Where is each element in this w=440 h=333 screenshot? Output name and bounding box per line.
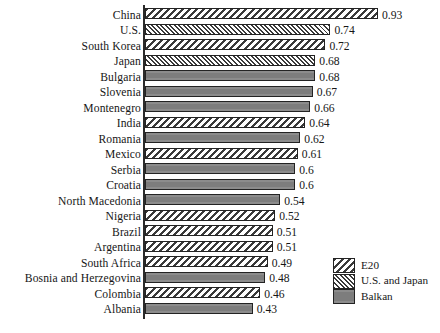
bar-category-label: Albania <box>104 304 141 316</box>
bar-category-label: Japan <box>114 56 141 68</box>
legend-swatch-icon <box>333 289 355 304</box>
bar-value-label: 0.6 <box>299 165 314 177</box>
bar-fill <box>145 303 253 314</box>
bar-value-label: 0.74 <box>334 25 354 37</box>
legend-swatch-icon <box>333 274 355 289</box>
legend-label: U.S. and Japan <box>361 276 428 287</box>
bar-category-label: Serbia <box>111 165 141 177</box>
bar-fill <box>145 8 378 19</box>
bar-fill <box>145 132 300 143</box>
bar-value-label: 0.51 <box>277 227 297 239</box>
bar-row: Japan0.68 <box>0 55 440 71</box>
bar-category-label: Argentina <box>94 242 141 254</box>
legend-item: Balkan <box>333 289 438 305</box>
bar-category-label: Bulgaria <box>100 72 141 84</box>
legend-swatch-icon <box>333 258 355 273</box>
bar-category-label: South Korea <box>82 41 141 53</box>
bar-value-label: 0.49 <box>272 258 292 270</box>
bar-category-label: Montenegro <box>83 103 141 115</box>
bar-row: Albania0.43 <box>0 303 440 319</box>
bar-value-label: 0.52 <box>279 211 299 223</box>
bar-fill <box>145 241 273 252</box>
bar-row: Romania0.62 <box>0 132 440 148</box>
bar-category-label: Nigeria <box>106 211 141 223</box>
bar-value-label: 0.66 <box>314 103 334 115</box>
legend-label: E20 <box>361 260 379 271</box>
bar-fill <box>145 256 268 267</box>
bar-fill <box>145 55 315 66</box>
bar-row: Brazil0.51 <box>0 225 440 241</box>
chart-legend: E20U.S. and JapanBalkan <box>333 258 438 305</box>
bar-value-label: 0.67 <box>317 87 337 99</box>
bar-value-label: 0.64 <box>309 118 329 130</box>
bar-row: Slovenia0.67 <box>0 86 440 102</box>
horizontal-bar-chart: China0.93U.S.0.74South Korea0.72Japan0.6… <box>0 0 440 333</box>
bar-row: Serbia0.6 <box>0 163 440 179</box>
bar-fill <box>145 287 260 298</box>
legend-item: U.S. and Japan <box>333 274 438 290</box>
bar-row: North Macedonia0.54 <box>0 194 440 210</box>
bar-row: Bulgaria0.68 <box>0 70 440 86</box>
legend-label: Balkan <box>361 291 393 302</box>
bar-row: Mexico0.61 <box>0 148 440 164</box>
bar-category-label: North Macedonia <box>58 196 141 208</box>
bar-value-label: 0.48 <box>269 273 289 285</box>
bar-row: Argentina0.51 <box>0 241 440 257</box>
bar-value-label: 0.43 <box>257 304 277 316</box>
bar-fill <box>145 24 330 35</box>
bar-value-label: 0.46 <box>264 289 284 301</box>
bar-category-label: Slovenia <box>100 87 141 99</box>
bar-row: Montenegro0.66 <box>0 101 440 117</box>
bar-fill <box>145 210 275 221</box>
bar-value-label: 0.54 <box>284 196 304 208</box>
bar-row: Nigeria0.52 <box>0 210 440 226</box>
bar-fill <box>145 86 313 97</box>
bar-category-label: China <box>113 10 141 22</box>
bar-value-label: 0.61 <box>302 149 322 161</box>
bar-category-label: South Africa <box>81 258 141 270</box>
bar-category-label: U.S. <box>120 25 141 37</box>
bar-row: India0.64 <box>0 117 440 133</box>
bar-value-label: 0.72 <box>329 41 349 53</box>
bar-value-label: 0.62 <box>304 134 324 146</box>
bar-fill <box>145 148 298 159</box>
bar-fill <box>145 163 295 174</box>
bar-row: U.S.0.74 <box>0 24 440 40</box>
bar-category-label: India <box>117 118 141 130</box>
bar-value-label: 0.93 <box>382 10 402 22</box>
bar-category-label: Croatia <box>106 180 141 192</box>
bar-category-label: Colombia <box>94 289 141 301</box>
legend-item: E20 <box>333 258 438 274</box>
bar-value-label: 0.68 <box>319 56 339 68</box>
bar-category-label: Brazil <box>112 227 141 239</box>
bar-category-label: Bosnia and Herzegovina <box>25 273 141 285</box>
bar-value-label: 0.6 <box>299 180 314 192</box>
bar-fill <box>145 117 305 128</box>
bar-value-label: 0.51 <box>277 242 297 254</box>
bar-row: China0.93 <box>0 8 440 24</box>
bar-fill <box>145 179 295 190</box>
bar-fill <box>145 272 265 283</box>
bar-category-label: Mexico <box>105 149 141 161</box>
bar-fill <box>145 70 315 81</box>
bar-row: South Korea0.72 <box>0 39 440 55</box>
bar-value-label: 0.68 <box>319 72 339 84</box>
bar-fill <box>145 194 280 205</box>
bar-fill <box>145 39 325 50</box>
bar-fill <box>145 225 273 236</box>
bar-category-label: Romania <box>98 134 141 146</box>
bar-row: Croatia0.6 <box>0 179 440 195</box>
bar-fill <box>145 101 310 112</box>
